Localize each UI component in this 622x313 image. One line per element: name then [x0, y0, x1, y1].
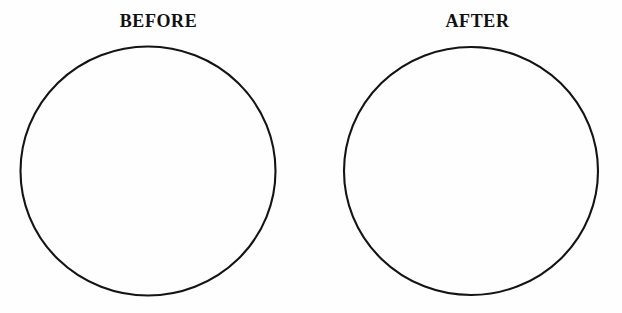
panel-after: AFTER	[311, 0, 622, 313]
before-circle-container	[19, 45, 277, 297]
after-circle-container	[342, 45, 600, 297]
empty-circle-icon	[21, 47, 276, 296]
before-circle-svg	[19, 45, 277, 297]
empty-circle-icon	[344, 47, 598, 295]
after-circle-svg	[342, 45, 600, 297]
diagram-canvas: BEFORE AFTER	[0, 0, 622, 313]
panel-before: BEFORE	[0, 0, 311, 313]
panel-before-label: BEFORE	[3, 11, 314, 31]
panel-after-label: AFTER	[322, 11, 622, 31]
